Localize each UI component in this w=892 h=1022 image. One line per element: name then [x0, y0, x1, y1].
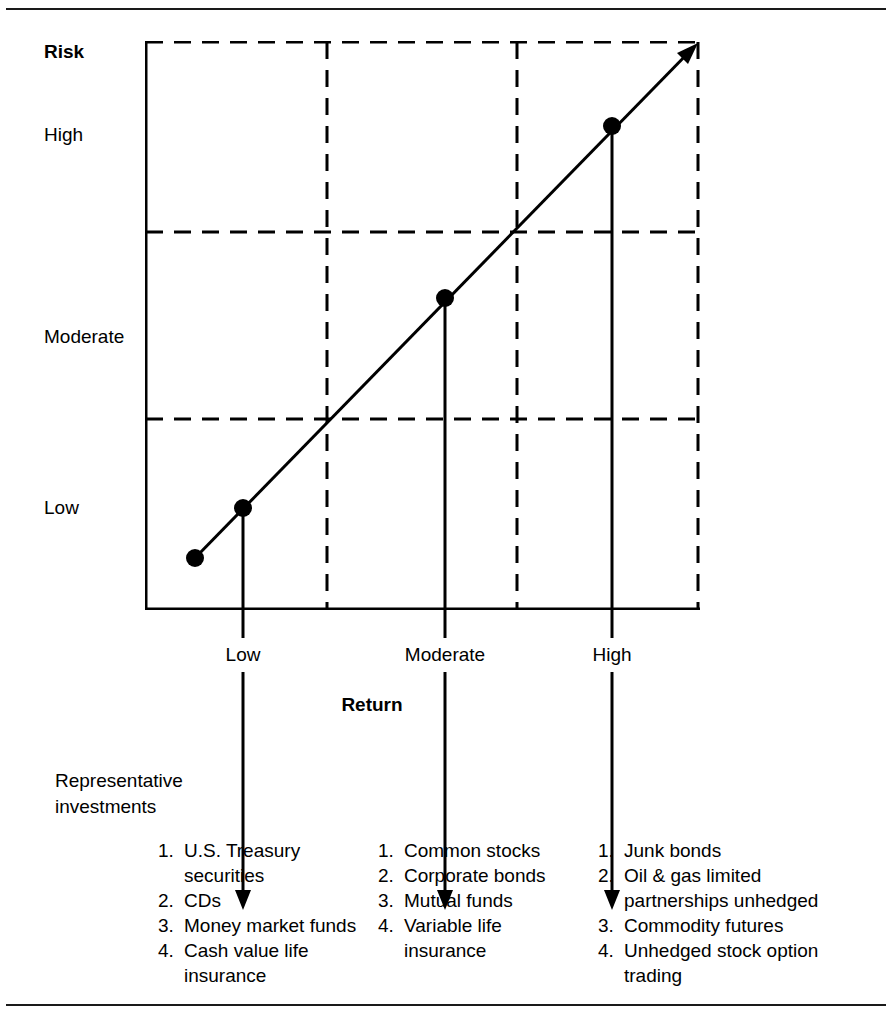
list-item-number: 4.	[158, 938, 184, 963]
list-item-text: Variable life insurance	[404, 913, 583, 963]
list-item-number: 4.	[598, 938, 624, 963]
list-item: 1.Common stocks	[378, 838, 583, 863]
list-item-number: 2.	[598, 863, 624, 888]
top-divider-rule	[6, 8, 886, 10]
investment-list-high: 1.Junk bonds2.Oil & gas limited partners…	[598, 838, 848, 988]
list-item-text: U.S. Treasury securities	[184, 838, 373, 888]
list-item-number: 2.	[378, 863, 404, 888]
list-item-number: 1.	[158, 838, 184, 863]
list-item: 3.Money market funds	[158, 913, 373, 938]
list-item-text: Money market funds	[184, 913, 373, 938]
list-item: 2.CDs	[158, 888, 373, 913]
list-item-text: Common stocks	[404, 838, 583, 863]
list-item: 4.Variable life insurance	[378, 913, 583, 963]
y-axis-title: Risk	[44, 41, 84, 62]
list-item-number: 1.	[598, 838, 624, 863]
list-item-number: 2.	[158, 888, 184, 913]
plot-svg	[145, 41, 700, 610]
list-item-text: Oil & gas limited partnerships unhedged	[624, 863, 848, 913]
list-item-text: CDs	[184, 888, 373, 913]
x-tick-label-moderate: Moderate	[405, 644, 485, 665]
list-item-number: 3.	[598, 913, 624, 938]
list-item-number: 4.	[378, 913, 404, 938]
representative-investments-label: Representative investments	[55, 768, 245, 820]
data-point-origin	[186, 549, 204, 567]
list-item: 2.Corporate bonds	[378, 863, 583, 888]
list-item: 2.Oil & gas limited partnerships unhedge…	[598, 863, 848, 913]
x-axis-title: Return	[341, 694, 402, 716]
list-item: 1.Junk bonds	[598, 838, 848, 863]
list-item-text: Mutual funds	[404, 888, 583, 913]
investment-list-low: 1.U.S. Treasury securities2.CDs3.Money m…	[158, 838, 373, 988]
figure-root: Risk High Moderate Low Low Moderate High…	[0, 0, 892, 1022]
list-item: 1.U.S. Treasury securities	[158, 838, 373, 888]
list-item: 3.Mutual funds	[378, 888, 583, 913]
list-item-number: 3.	[378, 888, 404, 913]
list-item-text: Corporate bonds	[404, 863, 583, 888]
list-item-text: Junk bonds	[624, 838, 848, 863]
risk-return-plot	[145, 41, 700, 610]
rep-label-line-1: Representative	[55, 768, 245, 794]
investment-list-moderate: 1.Common stocks2.Corporate bonds3.Mutual…	[378, 838, 583, 963]
x-tick-label-low: Low	[226, 644, 261, 665]
rep-label-line-2: investments	[55, 794, 245, 820]
list-item: 3.Commodity futures	[598, 913, 848, 938]
y-tick-label-moderate: Moderate	[44, 326, 124, 347]
x-tick-label-high: High	[592, 644, 631, 665]
y-tick-label-low: Low	[44, 497, 79, 518]
list-item-text: Unhedged stock option trading	[624, 938, 848, 988]
list-item: 4.Cash value life insurance	[158, 938, 373, 988]
list-item-text: Cash value life insurance	[184, 938, 373, 988]
y-tick-label-high: High	[44, 124, 83, 145]
list-item-text: Commodity futures	[624, 913, 848, 938]
list-item: 4.Unhedged stock option trading	[598, 938, 848, 988]
list-item-number: 3.	[158, 913, 184, 938]
bottom-divider-rule	[6, 1004, 886, 1006]
list-item-number: 1.	[378, 838, 404, 863]
